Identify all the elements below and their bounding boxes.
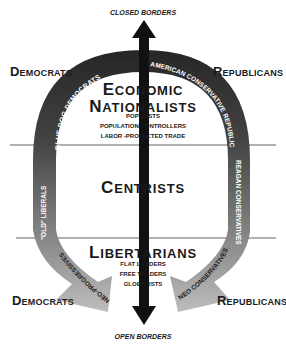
group-item: FLAT LANDERS xyxy=(0,261,286,267)
title-rest: IBERTARIANS xyxy=(100,246,197,261)
republicans-initial: R xyxy=(217,293,227,308)
title-initial: L xyxy=(89,243,100,262)
democrats-label-top: DEMOCRATS xyxy=(10,64,72,79)
republicans-label-top: REPUBLICANS xyxy=(213,64,283,79)
group-item: FREE TRADERS xyxy=(0,271,286,277)
democrats-rest: EMOCRATS xyxy=(22,297,74,307)
group-item: POPULATION CONTROLLERS xyxy=(0,123,286,129)
group-item: POPULISTS xyxy=(0,113,286,119)
centrists-title: CENTRISTS xyxy=(0,178,286,198)
group-item: LABOR -PROTECTED TRADE xyxy=(0,133,286,139)
svg-text:REAGAN CONSERVATIVES: REAGAN CONSERVATIVES xyxy=(235,160,242,245)
arc-label-reagan-conservatives: REAGAN CONSERVATIVES xyxy=(235,160,242,245)
open-borders-label: OPEN BORDERS xyxy=(0,333,286,340)
title-rest: ENTRISTS xyxy=(114,181,185,196)
democrats-label-bottom: DEMOCRATS xyxy=(12,293,74,308)
closed-borders-label: CLOSED BORDERS xyxy=(0,9,286,16)
democrats-rest: EMOCRATS xyxy=(20,68,72,78)
republicans-label-bottom: REPUBLICANS xyxy=(217,293,286,308)
democrats-initial: D xyxy=(10,64,20,79)
republicans-rest: EPUBLICANS xyxy=(223,68,284,78)
title-initial: C xyxy=(101,178,114,197)
republicans-rest: EPUBLICANS xyxy=(227,297,286,307)
democrats-initial: D xyxy=(12,293,22,308)
arrow-down-icon xyxy=(132,306,156,325)
libertarians-title: LIBERTARIANS xyxy=(0,243,286,263)
group-item: GLOBALISTS xyxy=(0,281,286,287)
arrow-up-icon xyxy=(132,20,156,38)
republicans-initial: R xyxy=(213,64,223,79)
title-rest: CONOMIC xyxy=(115,83,183,98)
